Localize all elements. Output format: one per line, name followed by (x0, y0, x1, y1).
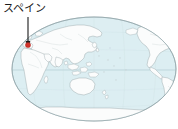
land-greenland (147, 18, 164, 28)
world-map (0, 0, 178, 129)
spain-marker-dot (25, 42, 30, 47)
location-map-figure: スペイン (0, 0, 178, 129)
